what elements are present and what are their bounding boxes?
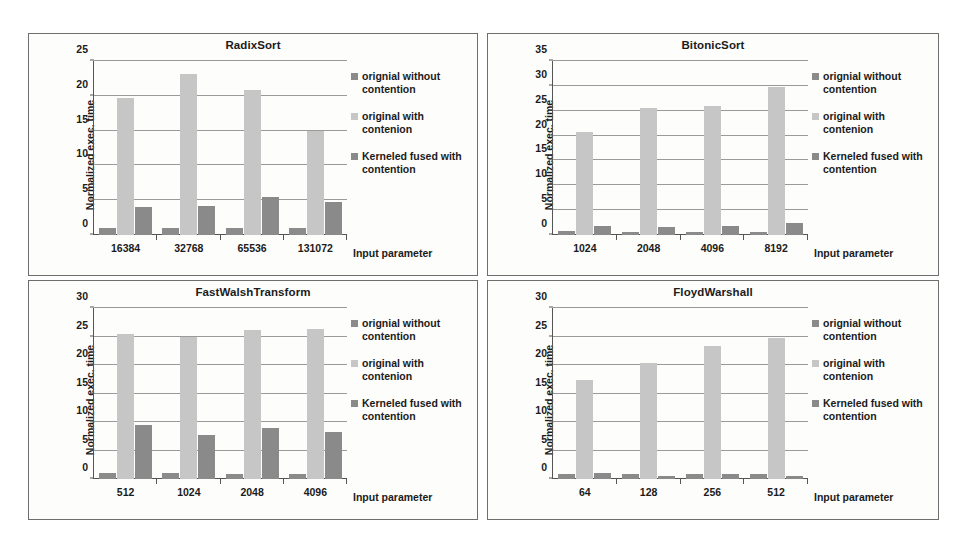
bar bbox=[244, 90, 261, 235]
bar bbox=[768, 338, 785, 479]
legend-item: orignial without contention bbox=[812, 70, 932, 97]
y-tick-label: 0 bbox=[541, 217, 547, 229]
x-tick-label: 2048 bbox=[221, 486, 284, 498]
bar-groups: 512102420484096 bbox=[94, 308, 347, 479]
bar bbox=[244, 330, 261, 479]
legend-item: orignial without contention bbox=[812, 317, 932, 344]
bar bbox=[99, 473, 116, 479]
bar bbox=[307, 131, 324, 235]
chart-title: RadixSort bbox=[29, 39, 477, 51]
y-tick-label: 20 bbox=[76, 347, 88, 359]
x-tick-label: 64 bbox=[553, 486, 617, 498]
x-tick-label: 256 bbox=[681, 486, 745, 498]
y-tick-label: 25 bbox=[535, 319, 547, 331]
bar bbox=[658, 476, 675, 479]
bar bbox=[162, 228, 179, 235]
legend-item: orignial without contention bbox=[351, 317, 471, 344]
bar bbox=[722, 474, 739, 479]
bar bbox=[722, 226, 739, 235]
legend-label: orignial without contention bbox=[823, 70, 932, 97]
bar bbox=[162, 473, 179, 479]
chart-title: FloydWarshall bbox=[488, 286, 938, 298]
bar-group: 8192 bbox=[744, 61, 808, 235]
bar-group: 2048 bbox=[221, 308, 284, 479]
bar bbox=[226, 474, 243, 479]
chart-legend: orignial without contentionoriginal with… bbox=[351, 317, 471, 437]
legend-label: original with contenion bbox=[362, 357, 471, 384]
chart-title: BitonicSort bbox=[488, 39, 938, 51]
y-tick-label: 0 bbox=[82, 461, 88, 473]
legend-swatch-original-without-contention bbox=[812, 73, 819, 80]
bar bbox=[786, 223, 803, 235]
bar-group: 1024 bbox=[553, 61, 617, 235]
legend-swatch-kerneled-fused-with-contention bbox=[812, 153, 819, 160]
chart-legend: orignial without contentionoriginal with… bbox=[812, 317, 932, 437]
y-tick-label: 5 bbox=[541, 433, 547, 445]
bar-group: 512 bbox=[94, 308, 157, 479]
plot-canvas: 051015202530351024204840968192Input para… bbox=[552, 61, 808, 235]
bar bbox=[180, 74, 197, 235]
y-tick-label: 5 bbox=[82, 433, 88, 445]
y-tick-label: 25 bbox=[76, 43, 88, 55]
legend-swatch-original-without-contention bbox=[812, 320, 819, 327]
bar-group: 2048 bbox=[617, 61, 681, 235]
bar bbox=[622, 232, 639, 235]
legend-swatch-original-with-contention bbox=[351, 360, 358, 367]
bar bbox=[117, 98, 134, 235]
bar bbox=[117, 334, 134, 479]
legend-label: Kerneled fused with contention bbox=[362, 397, 471, 424]
y-tick-label: 20 bbox=[76, 78, 88, 90]
legend-label: orignial without contention bbox=[362, 70, 471, 97]
plot-canvas: 051015202530512102420484096Input paramet… bbox=[93, 308, 347, 479]
bar bbox=[768, 87, 785, 235]
legend-swatch-kerneled-fused-with-contention bbox=[351, 153, 358, 160]
bar bbox=[325, 432, 342, 479]
x-tick-label: 2048 bbox=[617, 242, 681, 254]
bar-group: 4096 bbox=[681, 61, 745, 235]
figure-panels: RadixSortNormalized exec. time0510152025… bbox=[0, 0, 969, 556]
y-tick-label: 5 bbox=[82, 182, 88, 194]
legend-label: original with contenion bbox=[823, 110, 932, 137]
y-tick-label: 0 bbox=[82, 217, 88, 229]
x-tick-label: 128 bbox=[617, 486, 681, 498]
legend-swatch-original-with-contention bbox=[351, 113, 358, 120]
legend-label: orignial without contention bbox=[823, 317, 932, 344]
chart-panel-floydwarshall: FloydWarshallNormalized exec. time051015… bbox=[487, 280, 939, 520]
bar bbox=[640, 108, 657, 235]
legend-label: Kerneled fused with contention bbox=[362, 150, 471, 177]
bar bbox=[576, 380, 593, 479]
y-tick-label: 30 bbox=[535, 68, 547, 80]
legend-swatch-original-without-contention bbox=[351, 73, 358, 80]
bar bbox=[262, 428, 279, 479]
bar bbox=[594, 473, 611, 479]
y-tick-label: 10 bbox=[76, 147, 88, 159]
legend-item: original with contenion bbox=[812, 110, 932, 137]
chart-panel-radixsort: RadixSortNormalized exec. time0510152025… bbox=[28, 33, 478, 276]
y-tick-label: 15 bbox=[535, 142, 547, 154]
y-tick-label: 0 bbox=[541, 461, 547, 473]
bar bbox=[750, 232, 767, 235]
bar bbox=[135, 207, 152, 235]
bar bbox=[704, 106, 721, 235]
x-tick-label: 512 bbox=[744, 486, 808, 498]
x-axis-label: Input parameter bbox=[353, 491, 432, 503]
x-axis-label: Input parameter bbox=[353, 247, 432, 259]
bar bbox=[750, 474, 767, 479]
chart-panel-fastwalshtransform: FastWalshTransformNormalized exec. time0… bbox=[28, 280, 478, 520]
bar-group: 32768 bbox=[157, 61, 220, 235]
bar bbox=[198, 435, 215, 479]
chart-title: FastWalshTransform bbox=[29, 286, 477, 298]
x-tick-label: 4096 bbox=[681, 242, 745, 254]
y-tick-label: 35 bbox=[535, 43, 547, 55]
plot-area: 051015202530351024204840968192Input para… bbox=[552, 61, 808, 235]
legend-item: Kerneled fused with contention bbox=[351, 397, 471, 424]
y-tick-label: 5 bbox=[541, 192, 547, 204]
plot-area: 051015202530512102420484096Input paramet… bbox=[93, 308, 347, 479]
legend-label: original with contenion bbox=[362, 110, 471, 137]
legend-swatch-kerneled-fused-with-contention bbox=[351, 400, 358, 407]
legend-swatch-original-without-contention bbox=[351, 320, 358, 327]
y-tick-label: 10 bbox=[76, 404, 88, 416]
bar-group: 4096 bbox=[284, 308, 347, 479]
x-tick-label: 8192 bbox=[744, 242, 808, 254]
bar-group: 512 bbox=[744, 308, 808, 479]
